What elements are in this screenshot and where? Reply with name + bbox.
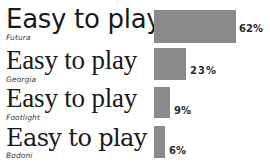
chart-row-bodoni: Easy to play Bodoni 6% [0, 124, 270, 163]
specimen-block-futura: Easy to play Futura [6, 6, 152, 42]
specimen-text-footlight: Easy to play [6, 85, 152, 112]
bar-georgia [154, 48, 186, 80]
bar-value-label-bodoni: 6% [169, 145, 186, 156]
bar-futura [154, 10, 236, 43]
specimen-text-futura: Easy to play [6, 6, 152, 32]
specimen-block-georgia: Easy to play Georgia [6, 47, 152, 84]
chart-row-futura: Easy to play Futura 62% [0, 0, 270, 45]
bar-bodoni [154, 126, 165, 158]
specimen-block-bodoni: Easy to play Bodoni [6, 126, 152, 160]
chart-row-georgia: Easy to play Georgia 23% [0, 45, 270, 85]
specimen-text-georgia: Easy to play [6, 47, 152, 74]
bar-value-label-futura: 62% [239, 23, 263, 34]
font-preference-bar-chart: Easy to play Futura 62% Easy to play Geo… [0, 0, 270, 163]
specimen-block-footlight: Easy to play Footlight [6, 85, 152, 122]
font-name-label-footlight: Footlight [6, 113, 152, 122]
font-name-label-bodoni: Bodoni [6, 151, 152, 160]
chart-row-footlight: Easy to play Footlight 9% [0, 85, 270, 125]
bar-value-label-footlight: 9% [174, 105, 191, 116]
bar-footlight [154, 87, 170, 118]
specimen-text-bodoni: Easy to play [6, 126, 152, 150]
bar-value-label-georgia: 23% [190, 65, 217, 76]
font-name-label-futura: Futura [6, 33, 152, 42]
